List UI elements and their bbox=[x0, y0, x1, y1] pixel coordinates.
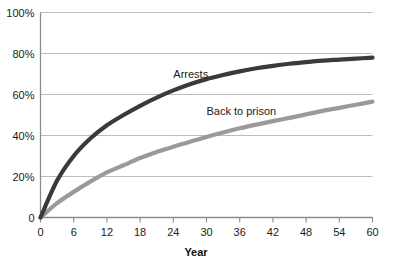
x-axis-ticks-group bbox=[41, 218, 373, 223]
series-label-back-to-prison: Back to prison bbox=[207, 105, 277, 117]
y-axis-tick-label: 60% bbox=[12, 89, 34, 101]
x-axis-tick-label: 60 bbox=[366, 226, 378, 238]
series-line-back-to-prison bbox=[41, 102, 373, 218]
x-axis-tick-label: 6 bbox=[71, 226, 77, 238]
chart-container: 020%40%60%80%100% 06121824303642485460 A… bbox=[0, 0, 393, 263]
series-label-arrests: Arrests bbox=[173, 68, 208, 80]
x-axis-tick-label: 36 bbox=[234, 226, 246, 238]
x-axis-tick-label: 54 bbox=[333, 226, 345, 238]
x-axis-title: Year bbox=[184, 246, 208, 258]
y-axis-tick-label: 40% bbox=[12, 130, 34, 142]
data-series-group bbox=[41, 58, 373, 218]
line-chart: 020%40%60%80%100% 06121824303642485460 A… bbox=[0, 0, 393, 263]
x-axis-tick-label: 0 bbox=[37, 226, 43, 238]
y-axis-labels-group: 020%40%60%80%100% bbox=[6, 7, 34, 224]
x-axis-tick-label: 42 bbox=[267, 226, 279, 238]
x-axis-tick-label: 24 bbox=[167, 226, 179, 238]
y-axis-tick-label: 20% bbox=[12, 171, 34, 183]
y-axis-tick-label: 100% bbox=[6, 7, 34, 19]
x-axis-tick-label: 48 bbox=[300, 226, 312, 238]
y-axis-tick-label: 80% bbox=[12, 48, 34, 60]
x-axis-tick-label: 30 bbox=[200, 226, 212, 238]
y-axis-tick-label: 0 bbox=[28, 212, 34, 224]
x-axis-labels-group: 06121824303642485460 bbox=[37, 226, 378, 238]
x-axis-tick-label: 18 bbox=[134, 226, 146, 238]
x-axis-tick-label: 12 bbox=[101, 226, 113, 238]
